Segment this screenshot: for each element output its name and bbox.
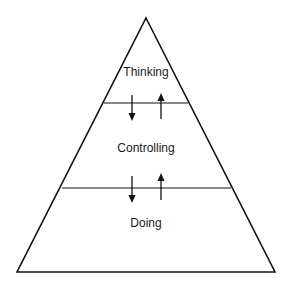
level-label-thinking: Thinking [123,65,168,79]
level-label-controlling: Controlling [117,141,174,155]
level-label-doing: Doing [130,216,161,230]
pyramid-diagram: Thinking Controlling Doing [0,0,287,285]
